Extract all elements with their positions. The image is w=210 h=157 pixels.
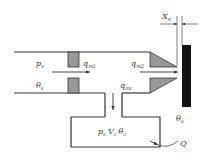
label-heat-q: Q (180, 139, 187, 148)
label-chamber-state: pcVcθc (98, 127, 126, 137)
orifice-upper-block (68, 52, 79, 67)
heat-arrow (150, 141, 158, 145)
label-supply-pressure: ps (36, 59, 44, 69)
label-flow-qm1: qm1 (83, 59, 96, 69)
flapper-baffle (182, 45, 191, 107)
heat-curve (158, 141, 178, 146)
label-supply-temperature: θs (36, 81, 44, 91)
nozzle-upper-wedge (150, 52, 177, 67)
label-gap-xn: Xn (161, 12, 171, 22)
orifice-lower-block (68, 78, 79, 93)
nozzle-flapper-diagram: ps θs qm1 qm2 qmc Xn θa pcVcθc Q (0, 0, 210, 157)
label-ambient-temperature: θa (176, 114, 184, 124)
label-flow-qmc: qmc (120, 81, 133, 91)
label-flow-qm2: qm2 (131, 59, 144, 69)
nozzle-lower-wedge (150, 78, 177, 93)
